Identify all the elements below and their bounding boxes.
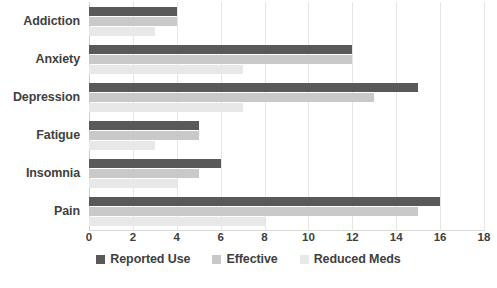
x-tick-label: 8	[261, 231, 267, 243]
bar-rows	[89, 2, 484, 230]
gridline	[484, 2, 485, 230]
x-axis-tick-labels: 024681012141618	[89, 231, 484, 247]
bar	[89, 83, 418, 92]
bar	[89, 27, 155, 36]
legend-swatch-icon	[300, 255, 309, 264]
bar	[89, 197, 440, 206]
x-tick-label: 0	[86, 231, 92, 243]
legend-swatch-icon	[96, 255, 105, 264]
bar-group	[89, 78, 484, 116]
bar-group	[89, 154, 484, 192]
bar	[89, 45, 352, 54]
bar	[89, 17, 177, 26]
bar	[89, 131, 199, 140]
legend-item[interactable]: Reduced Meds	[300, 252, 401, 266]
bar	[89, 179, 177, 188]
bar	[89, 217, 265, 226]
bar	[89, 121, 199, 130]
legend-item[interactable]: Reported Use	[96, 252, 190, 266]
bar	[89, 207, 418, 216]
legend-label: Reported Use	[110, 252, 190, 266]
legend-item[interactable]: Effective	[212, 252, 277, 266]
bar-group	[89, 192, 484, 230]
x-tick-label: 12	[346, 231, 359, 243]
bar	[89, 55, 352, 64]
x-tick-label: 18	[478, 231, 491, 243]
y-axis-category-labels: Addiction Anxiety Depression Fatigue Ins…	[0, 2, 85, 230]
bar	[89, 103, 243, 112]
legend-label: Effective	[226, 252, 277, 266]
bar	[89, 159, 221, 168]
chart-legend: Reported UseEffectiveReduced Meds	[0, 252, 497, 266]
category-label: Addiction	[0, 2, 85, 40]
category-label: Insomnia	[0, 154, 85, 192]
x-tick-label: 6	[217, 231, 223, 243]
legend-swatch-icon	[212, 255, 221, 264]
legend-label: Reduced Meds	[314, 252, 401, 266]
bar	[89, 65, 243, 74]
plot-area	[89, 2, 484, 230]
x-tick-label: 16	[434, 231, 447, 243]
bar	[89, 7, 177, 16]
bar-chart: Addiction Anxiety Depression Fatigue Ins…	[0, 0, 497, 288]
bar-group	[89, 116, 484, 154]
bar	[89, 93, 374, 102]
bar	[89, 169, 199, 178]
x-tick-label: 4	[174, 231, 180, 243]
bar	[89, 141, 155, 150]
category-label: Depression	[0, 78, 85, 116]
bar-group	[89, 2, 484, 40]
x-tick-label: 14	[390, 231, 403, 243]
x-tick-label: 2	[130, 231, 136, 243]
category-label: Anxiety	[0, 40, 85, 78]
category-label: Pain	[0, 192, 85, 230]
bar-group	[89, 40, 484, 78]
x-tick-label: 10	[302, 231, 315, 243]
category-label: Fatigue	[0, 116, 85, 154]
